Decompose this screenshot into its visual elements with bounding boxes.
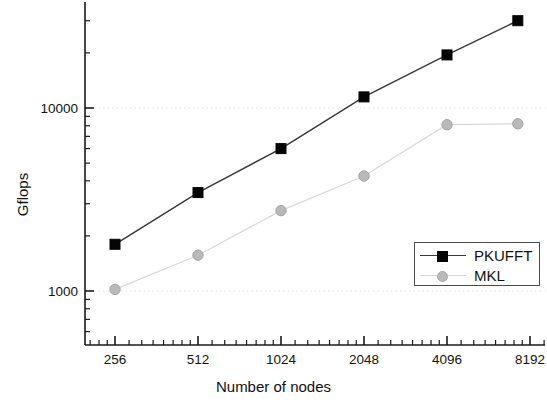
y-axis-title: Gflops bbox=[14, 160, 31, 230]
data-point-pkufft-3 bbox=[359, 92, 369, 102]
legend-swatch-mkl bbox=[420, 269, 466, 283]
y-axis-title-wrap: Gflops bbox=[0, 160, 44, 240]
y-tick-label: 1000 bbox=[18, 284, 78, 299]
data-point-mkl-0 bbox=[110, 284, 120, 294]
x-tick-label: 2048 bbox=[349, 352, 379, 367]
legend-label: PKUFFT bbox=[474, 247, 532, 264]
data-point-pkufft-2 bbox=[276, 144, 286, 154]
data-point-mkl-4 bbox=[442, 120, 452, 130]
x-tick-label: 1024 bbox=[266, 352, 296, 367]
legend-marker-circle-icon bbox=[437, 271, 448, 282]
data-point-mkl-5 bbox=[513, 119, 523, 129]
data-point-mkl-2 bbox=[276, 205, 286, 215]
x-tick-label: 4096 bbox=[432, 352, 462, 367]
x-tick-label: 8192 bbox=[515, 352, 545, 367]
chart-figure: Gflops Number of nodes 100001000 2565121… bbox=[0, 0, 547, 402]
data-point-mkl-1 bbox=[193, 250, 203, 260]
x-axis-title: Number of nodes bbox=[0, 378, 547, 395]
data-point-pkufft-5 bbox=[513, 16, 523, 26]
data-point-pkufft-0 bbox=[110, 239, 120, 249]
series-line-pkufft bbox=[115, 21, 518, 245]
legend-item-mkl[interactable]: MKL bbox=[420, 267, 505, 284]
x-tick-label: 512 bbox=[187, 352, 210, 367]
legend-swatch-pkufft bbox=[420, 249, 466, 263]
y-tick-label: 10000 bbox=[18, 101, 78, 116]
y-axis-ticks bbox=[85, 21, 94, 332]
legend-marker-square-icon bbox=[437, 251, 448, 262]
plot-area bbox=[0, 0, 547, 402]
axis-spines bbox=[85, 2, 545, 345]
data-point-mkl-3 bbox=[359, 171, 369, 181]
x-tick-label: 256 bbox=[104, 352, 127, 367]
data-point-pkufft-1 bbox=[193, 188, 203, 198]
legend-label: MKL bbox=[474, 267, 505, 284]
legend: PKUFFTMKL bbox=[414, 242, 540, 286]
x-axis-ticks bbox=[90, 336, 544, 345]
data-point-pkufft-4 bbox=[442, 50, 452, 60]
legend-item-pkufft[interactable]: PKUFFT bbox=[420, 247, 532, 264]
